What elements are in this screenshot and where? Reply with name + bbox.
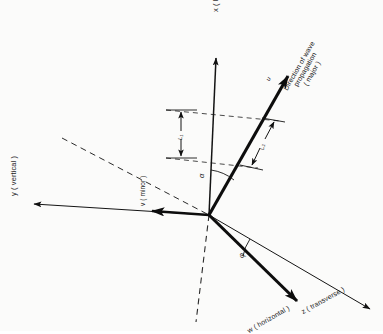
propagation-vector-arrow xyxy=(209,76,288,215)
phi-angle-text: φ xyxy=(237,253,246,258)
construction-lines xyxy=(62,110,280,322)
y-axis-label: y ( vertical ) xyxy=(10,156,18,196)
minor-vector-label: v ( minor ) xyxy=(140,176,147,206)
minor-vector-label-text: v ( minor ) xyxy=(139,176,146,206)
y-axis-label-text: y ( vertical ) xyxy=(9,156,18,196)
l1-dimension-text: L₁ xyxy=(177,135,183,140)
dashed-vertical-line xyxy=(196,215,209,322)
x-axis-line xyxy=(209,58,216,215)
alpha-angle-label: α xyxy=(198,174,206,178)
l1-dimension-label: L₁ xyxy=(177,135,183,140)
alpha-angle-text: α xyxy=(197,174,206,178)
dashed-diagonal-line xyxy=(62,138,209,215)
minor-vector-arrow xyxy=(152,211,209,215)
l2-dimension-text: L₂ xyxy=(259,144,265,150)
x-axis-label: x ( longitudinal ) xyxy=(212,0,220,12)
horizontal-vector-arrow xyxy=(209,215,297,301)
x-axis-label-text: x ( longitudinal ) xyxy=(211,0,220,12)
l2-dimension-label: L₂ xyxy=(259,144,265,150)
phi-angle-label: φ xyxy=(238,253,246,258)
